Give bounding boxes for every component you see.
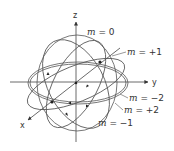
label-m-2: m = −2 <box>129 93 164 103</box>
node-point <box>50 100 53 103</box>
node-point <box>98 60 101 63</box>
leader-line <box>115 103 123 110</box>
orbital-diagram: z y x m = 0 m = +1 m = −2 m = +2 m = −1 <box>0 0 174 151</box>
label-m-1: m = −1 <box>98 118 133 128</box>
x-axis-label: x <box>20 121 25 130</box>
z-axis-label: z <box>73 11 77 20</box>
arrow-icon <box>47 72 50 75</box>
orbit-m-2 <box>28 62 128 104</box>
leader-line <box>120 94 128 98</box>
arrow-icon <box>86 85 89 88</box>
origin-point <box>75 82 78 85</box>
arrow-icon <box>65 113 68 117</box>
label-m+1: m = +1 <box>127 47 162 57</box>
label-m0: m = 0 <box>87 27 115 37</box>
label-m+2: m = +2 <box>124 105 159 115</box>
y-axis-label: y <box>152 78 157 87</box>
orbit-m+2 <box>30 64 126 102</box>
